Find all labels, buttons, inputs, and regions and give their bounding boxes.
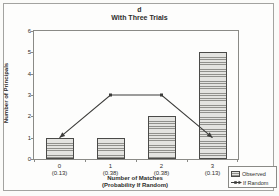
arrow-line-marker-icon — [231, 179, 242, 186]
ytick-label: 4 — [21, 71, 31, 77]
ytick-label: 2 — [21, 113, 31, 119]
legend-item-if-random: If Random — [231, 178, 274, 187]
xtick-mark — [85, 159, 86, 162]
line-series-if-random — [34, 31, 238, 159]
line-point-marker — [109, 94, 112, 97]
line-point-marker — [160, 94, 163, 97]
xtick-mark — [237, 159, 238, 162]
ytick-label: 1 — [21, 135, 31, 141]
xtick-mark — [187, 159, 188, 162]
xtick-mark — [136, 159, 137, 162]
plot-area: 01234560(0.13)1(0.38)2(0.38)3(0.13) — [33, 30, 239, 160]
ytick-label: 6 — [21, 28, 31, 34]
ytick-label: 3 — [21, 92, 31, 98]
ytick-label: 0 — [21, 156, 31, 162]
legend-label-observed: Observed — [242, 171, 266, 177]
xtick-mark — [34, 159, 35, 162]
chart-title: d — [0, 6, 279, 14]
x-axis-title: Number of Matches — [33, 175, 237, 182]
legend-item-observed: Observed — [231, 169, 274, 178]
legend: Observed If Random — [228, 166, 277, 188]
y-axis-title: Number of Principals — [3, 48, 13, 138]
ytick-label: 5 — [21, 49, 31, 55]
hatched-bar-swatch-icon — [231, 171, 240, 177]
x-axis-title-line2: (Probability If Random) — [33, 182, 237, 189]
legend-label-if-random: If Random — [243, 180, 268, 186]
chart-subtitle: With Three Trials — [0, 14, 279, 22]
